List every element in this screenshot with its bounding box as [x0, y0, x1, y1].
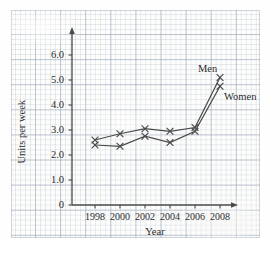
y-tick-label-4: 4.0 [38, 100, 64, 111]
page-bottom-margin [0, 238, 275, 257]
series-label-women: Women [224, 92, 256, 103]
y-tick-label-3: 3.0 [38, 125, 64, 136]
y-axis [69, 27, 75, 205]
series-label-men: Men [198, 64, 217, 75]
x-axis [72, 202, 238, 208]
x-axis-title: Year [125, 227, 185, 238]
chart-page: 6.0 5.0 4.0 3.0 2.0 1.0 0 1998 2000 2002… [0, 0, 275, 257]
y-tick-label-0: 0 [38, 200, 64, 211]
y-axis-title: Units per week [17, 100, 28, 164]
series-line-men [95, 78, 220, 141]
series-markers-men [92, 74, 224, 143]
y-tick-label-1: 1.0 [38, 175, 64, 186]
y-tick-label-2: 2.0 [38, 150, 64, 161]
x-tick-label-2008: 2008 [205, 212, 235, 222]
y-tick-label-5: 5.0 [38, 75, 64, 86]
y-tick-label-6: 6.0 [38, 50, 64, 61]
